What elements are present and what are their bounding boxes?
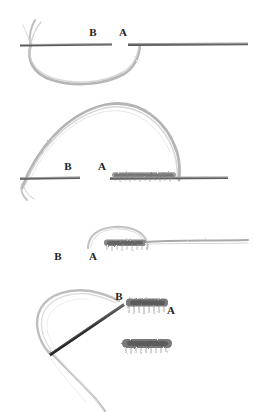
panel-1-label-a: A <box>119 26 127 38</box>
panel-3-label-a: A <box>89 250 97 262</box>
panel-2-label-a: A <box>98 160 106 172</box>
stitch-diagram-canvas: B A <box>0 0 254 412</box>
figure-background <box>0 0 254 412</box>
panel-3-label-b: B <box>54 250 62 262</box>
panel-4-label-a: A <box>167 304 175 316</box>
stitch-diagram-figure: B A <box>0 0 254 412</box>
panel-1-label-b: B <box>89 26 97 38</box>
panel-2-label-b: B <box>64 160 72 172</box>
panel-4-label-b: B <box>115 290 123 302</box>
